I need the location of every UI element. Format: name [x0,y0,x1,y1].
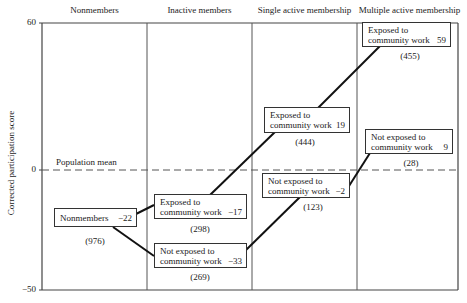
box-value: 9 [444,142,449,152]
box-single-not-exposed: Not exposed to community work −2 [262,173,350,198]
participation-diagram: Nonmembers Inactive members Single activ… [0,0,467,303]
population-mean-label: Population mean [56,157,117,167]
box-multiple-not-exposed: Not exposed to community work 9 [365,129,453,154]
box-inactive-exposed: Exposed to community work −17 [154,194,247,219]
box-line2: community work [268,186,330,196]
box-value: −17 [228,207,242,217]
box-value: 59 [437,35,446,45]
box-line1: Not exposed to [160,246,242,256]
box-value: −33 [228,256,242,266]
box-line2: community work [160,207,222,217]
box-nonmembers: Nonmembers −22 [54,208,137,227]
box-value: −2 [335,186,345,196]
box-single-exposed: Exposed to community work 19 [264,107,350,133]
box-line1: Exposed to [160,197,242,207]
column-header-multiple-active: Multiple active membership [357,5,462,15]
box-line2: community work [368,35,430,45]
box-line2: community work [270,120,332,130]
box-inactive-not-exposed: Not exposed to community work −33 [154,243,247,268]
y-tick-minus-50: −50 [10,284,36,294]
box-line1: Exposed to [368,25,446,35]
box-value: 19 [336,120,345,130]
n-inactive-not-exposed: (269) [180,272,220,282]
y-axis-label: Corrected participation score [6,88,16,238]
column-header-inactive-members: Inactive members [147,5,252,15]
n-multiple-not-exposed: (28) [391,158,431,168]
y-tick-60: 60 [10,17,36,27]
box-line1: Not exposed to [371,132,448,142]
n-single-not-exposed: (123) [293,202,333,212]
box-label: Nonmembers [60,213,109,223]
box-line1: Not exposed to [268,176,345,186]
column-header-nonmembers: Nonmembers [42,5,147,15]
n-inactive-exposed: (298) [180,224,220,234]
column-header-single-active: Single active membership [252,5,357,15]
box-line2: community work [371,142,433,152]
box-value: −22 [118,213,132,223]
n-nonmembers: (976) [75,236,115,246]
n-single-exposed: (444) [285,137,325,147]
box-multiple-exposed: Exposed to community work 59 [362,22,451,47]
box-line2: community work [160,256,222,266]
n-multiple-exposed: (455) [390,51,430,61]
box-line1: Exposed to [270,110,345,120]
